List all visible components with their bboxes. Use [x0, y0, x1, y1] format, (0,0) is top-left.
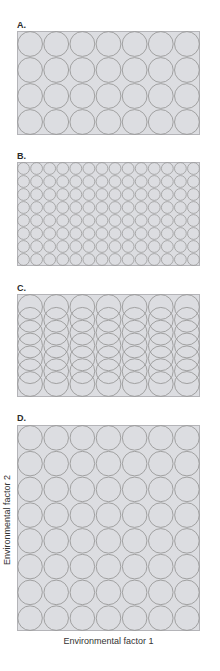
panel-d-niche-grid [17, 425, 200, 631]
panel-a [17, 31, 200, 135]
x-axis-label: Environmental factor 1 [17, 637, 200, 646]
y-axis-label: Environmental factor 2 [3, 475, 12, 565]
panel-d [17, 425, 200, 631]
panel-background [18, 32, 200, 135]
panel-b-niche-grid [17, 162, 200, 266]
panel-c-label: C. [17, 284, 26, 293]
panel-a-label: A. [17, 21, 26, 30]
panel-c-overlapping-niches [17, 294, 200, 397]
panel-b-label: B. [17, 152, 26, 161]
panel-b [17, 162, 200, 266]
panel-background [18, 426, 200, 631]
panel-c [17, 294, 200, 397]
panel-a-niche-grid [17, 31, 200, 135]
panel-d-label: D. [17, 414, 26, 423]
